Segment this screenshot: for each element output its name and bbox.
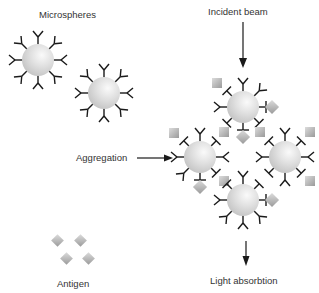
free-microsphere-2 [75,64,133,122]
light-absorption-arrow [243,241,250,266]
light-absorption-label: Light absorbtion [210,275,278,286]
cluster-microsphere-right [255,127,315,186]
aggregation-arrow [137,155,173,162]
microspheres-label: Microspheres [39,9,96,20]
incident-beam-arrow [239,22,247,68]
agglutination-diagram [0,0,319,293]
incident-beam-label: Incident beam [208,6,268,17]
aggregation-label: Aggregation [76,152,127,163]
antigen-label: Antigen [57,278,89,289]
free-microsphere-1 [9,31,67,89]
cluster-microsphere-left [169,127,229,194]
antigen-group [51,234,95,265]
